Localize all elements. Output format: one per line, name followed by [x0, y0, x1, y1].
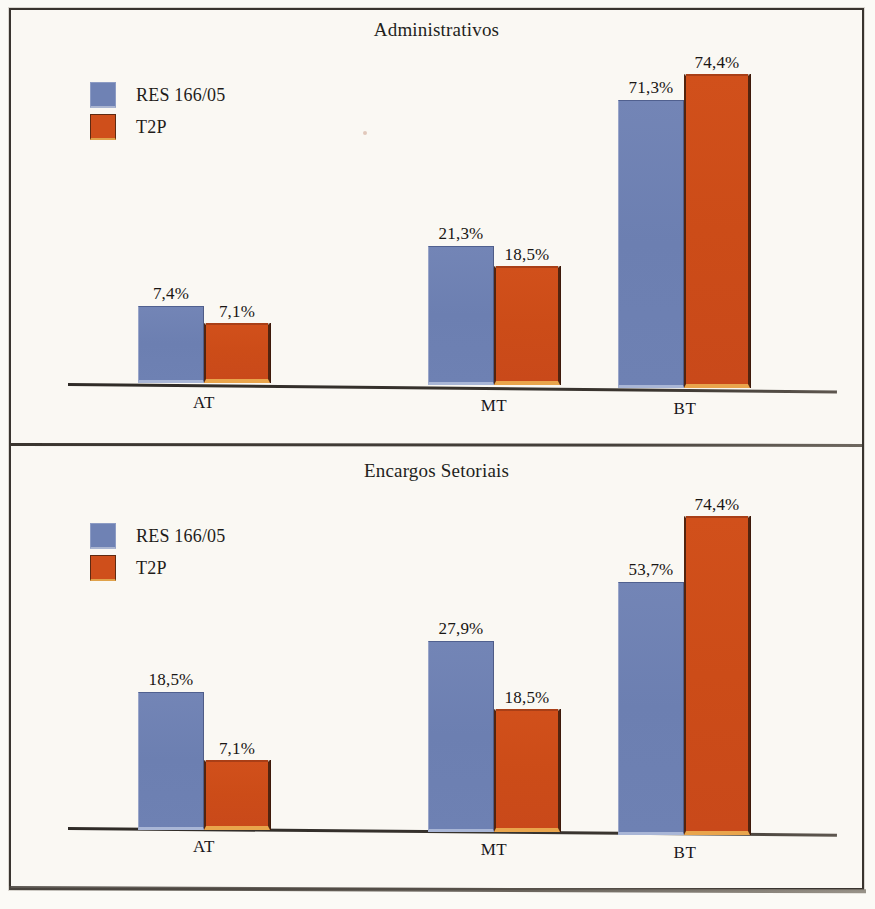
- bar-value-res-mt: 21,3%: [439, 224, 484, 244]
- bar-value-res-bt: 53,7%: [629, 560, 674, 580]
- scanned-page: Administrativos RES 166/05 T2P 7,4%: [0, 0, 875, 909]
- bar-t2p-at: 7,1%: [204, 323, 270, 383]
- x-tick-at: AT: [193, 837, 215, 857]
- plot-area-administrativos: 7,4% 7,1% 21,3% 18,5%: [11, 11, 862, 441]
- bar-value-t2p-at: 7,1%: [219, 302, 255, 322]
- bar-value-res-mt: 27,9%: [439, 619, 484, 639]
- chart-panel-encargos-setoriais: Encargos Setoriais RES 166/05 T2P 18,5%: [11, 448, 862, 888]
- bar-value-t2p-bt: 74,4%: [695, 53, 740, 73]
- bar-t2p-bt: 74,4%: [684, 74, 750, 388]
- bar-t2p-bt: 74,4%: [684, 516, 750, 835]
- x-tick-mt: MT: [481, 396, 508, 416]
- bar-res-bt: 71,3%: [618, 100, 684, 388]
- x-tick-bt: BT: [674, 399, 697, 419]
- x-tick-mt: MT: [481, 840, 508, 860]
- bar-value-t2p-mt: 18,5%: [505, 245, 550, 265]
- bar-t2p-mt: 18,5%: [494, 266, 560, 385]
- bar-t2p-mt: 18,5%: [494, 709, 560, 832]
- bar-res-at: 18,5%: [138, 692, 204, 830]
- bar-res-mt: 21,3%: [428, 246, 494, 385]
- x-tick-bt: BT: [674, 843, 697, 863]
- bar-value-res-bt: 71,3%: [629, 78, 674, 98]
- bar-t2p-at: 7,1%: [204, 760, 270, 830]
- bar-value-t2p-bt: 74,4%: [695, 495, 740, 515]
- bar-value-t2p-at: 7,1%: [219, 739, 255, 759]
- bar-res-mt: 27,9%: [428, 641, 494, 832]
- bar-res-at: 7,4%: [138, 306, 204, 383]
- chart-panel-administrativos: Administrativos RES 166/05 T2P 7,4%: [11, 11, 862, 441]
- bar-res-bt: 53,7%: [618, 582, 684, 835]
- x-tick-at: AT: [193, 393, 215, 413]
- plot-area-encargos-setoriais: 18,5% 7,1% 27,9% 18,5%: [11, 448, 862, 888]
- bar-value-res-at: 7,4%: [153, 284, 189, 304]
- bar-value-res-at: 18,5%: [149, 670, 194, 690]
- bar-value-t2p-mt: 18,5%: [505, 688, 550, 708]
